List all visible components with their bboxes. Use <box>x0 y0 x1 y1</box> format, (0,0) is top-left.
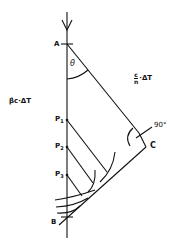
label-p3: P3 <box>55 171 64 179</box>
theta-arc <box>67 70 88 79</box>
label-point-c: C <box>150 142 156 150</box>
ray-p3 <box>67 175 82 196</box>
label-light-path: c n ·ΔT <box>134 72 152 85</box>
label-p1: P1 <box>55 116 64 124</box>
label-right-angle: 90° <box>154 122 166 129</box>
wavefront-bc <box>59 147 146 225</box>
ray-p1 <box>67 120 107 172</box>
label-point-a: A <box>54 41 59 48</box>
ray-p2 <box>67 147 93 183</box>
cherenkov-diagram <box>0 0 181 240</box>
label-p2: P2 <box>55 143 64 151</box>
label-theta: θ <box>70 60 75 68</box>
label-point-b: B <box>51 219 56 226</box>
label-particle-path: βc·ΔT <box>9 98 31 105</box>
line-ac <box>67 44 139 133</box>
